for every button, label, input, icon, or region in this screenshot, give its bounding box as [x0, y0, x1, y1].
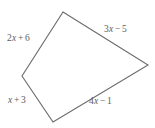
geometry-figure: 2x + 6 3x − 5 x + 3 4x − 1: [0, 0, 155, 128]
operator-minus-lower-right: −: [99, 96, 106, 106]
side-label-upper-right: 3x − 5: [104, 25, 127, 35]
constant-1: 1: [107, 96, 112, 106]
side-label-lower-left: x + 3: [8, 96, 26, 106]
variable-x-upper-left: x: [12, 33, 16, 43]
operator-plus-lower-left: +: [13, 95, 20, 105]
operator-minus-upper-right: −: [114, 24, 121, 34]
quadrilateral-svg: [0, 0, 155, 128]
operator-plus-upper-left: +: [17, 33, 24, 43]
variable-x-lower-left: x: [8, 95, 12, 105]
quadrilateral-outline: [22, 12, 148, 122]
side-label-upper-left: 2x + 6: [7, 34, 30, 44]
variable-x-upper-right: x: [109, 24, 113, 34]
constant-3: 3: [21, 95, 26, 105]
variable-x-lower-right: x: [94, 96, 98, 106]
side-label-lower-right: 4x − 1: [89, 97, 112, 107]
constant-6: 6: [25, 33, 30, 43]
constant-5: 5: [122, 24, 127, 34]
